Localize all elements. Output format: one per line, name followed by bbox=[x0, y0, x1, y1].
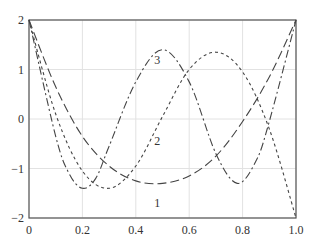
y-tick-label: 2 bbox=[18, 13, 24, 27]
x-tick-label: 0.8 bbox=[235, 223, 250, 237]
y-tick-label: −1 bbox=[11, 162, 24, 176]
curve-label-2: 2 bbox=[154, 134, 160, 148]
line-chart: 00.20.40.60.81.0−2−1012123 bbox=[0, 0, 312, 249]
chart: 00.20.40.60.81.0−2−1012123 bbox=[0, 0, 312, 249]
x-tick-label: 1.0 bbox=[289, 223, 304, 237]
curve-label-3: 3 bbox=[154, 53, 160, 67]
y-tick-label: 1 bbox=[18, 63, 24, 77]
y-tick-label: 0 bbox=[18, 112, 24, 126]
x-tick-label: 0.6 bbox=[182, 223, 197, 237]
y-tick-label: −2 bbox=[11, 211, 24, 225]
x-tick-label: 0.2 bbox=[75, 223, 90, 237]
series-line-1 bbox=[29, 20, 296, 184]
curve-label-1: 1 bbox=[154, 196, 160, 210]
x-tick-label: 0.4 bbox=[128, 223, 143, 237]
series-line-3 bbox=[29, 20, 296, 188]
x-tick-label: 0 bbox=[26, 223, 32, 237]
